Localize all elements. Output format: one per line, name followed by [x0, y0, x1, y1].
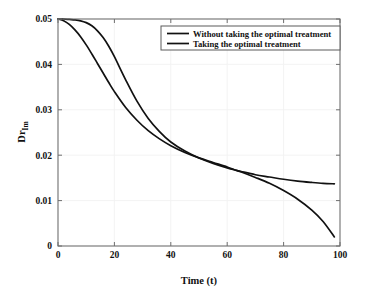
y-axis-label-main: Dr	[16, 130, 27, 143]
y-tick-label: 0.03	[35, 105, 52, 115]
y-axis-tick-labels: 00.010.020.030.040.05	[35, 14, 52, 251]
data-curves	[58, 19, 334, 237]
y-tick-label: 0.05	[35, 14, 52, 24]
x-tick-label: 0	[56, 250, 61, 260]
x-axis-label: Time (t)	[181, 275, 218, 287]
y-axis-label-group: DrIm	[16, 121, 30, 143]
x-tick-label: 100	[333, 250, 348, 260]
x-tick-label: 80	[279, 250, 289, 260]
plot-frame	[58, 19, 340, 246]
y-axis-ticks	[58, 19, 340, 246]
y-tick-label: 0.01	[35, 196, 52, 206]
legend-label-0: Without taking the optimal treatment	[193, 29, 331, 39]
x-tick-label: 60	[222, 250, 232, 260]
figure-container: 020406080100 00.010.020.030.040.05 Time …	[0, 0, 370, 293]
y-tick-label: 0.04	[35, 60, 52, 70]
x-tick-label: 20	[110, 250, 120, 260]
x-tick-label: 40	[166, 250, 176, 260]
line-chart: 020406080100 00.010.020.030.040.05 Time …	[0, 0, 370, 293]
y-tick-label: 0.02	[35, 151, 52, 161]
series-line-0	[58, 19, 334, 237]
x-axis-ticks	[58, 19, 340, 246]
x-axis-tick-labels: 020406080100	[56, 250, 348, 260]
legend-label-1: Taking the optimal treatment	[193, 39, 301, 49]
y-axis-label-subscript: Im	[21, 121, 30, 131]
legend[interactable]: Without taking the optimal treatment Tak…	[161, 26, 340, 50]
y-axis-label: DrIm	[16, 121, 30, 143]
gridlines	[58, 19, 340, 246]
y-tick-label: 0	[47, 241, 52, 251]
